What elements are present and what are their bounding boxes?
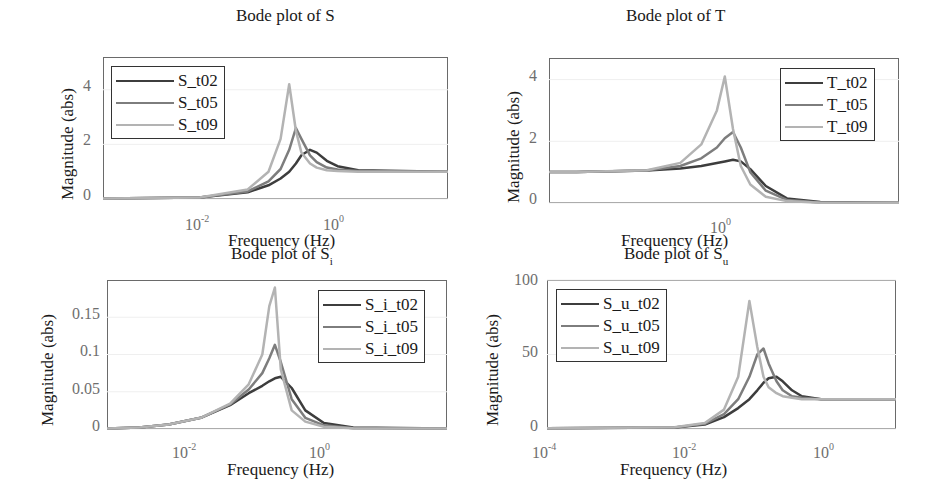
legend-swatch: [561, 325, 599, 327]
legend-item: S_i_t05: [323, 316, 418, 338]
legend-label: S_i_t02: [365, 295, 418, 315]
y-tick-label: 0.05: [52, 380, 100, 398]
legend-item: S_i_t02: [323, 294, 418, 316]
legend-item: S_u_t05: [561, 315, 660, 337]
x-tick-label: 10-2: [672, 441, 696, 462]
legend-label: S_t09: [178, 115, 218, 135]
y-axis-label: Magnitude (abs): [504, 91, 524, 203]
legend-item: S_i_t09: [323, 338, 418, 360]
y-axis-label: Magnitude (abs): [483, 314, 503, 426]
legend: T_t02 T_t05 T_t09: [780, 68, 875, 141]
y-tick-label: 0: [52, 417, 100, 435]
legend-swatch: [561, 303, 599, 305]
legend-label: S_t05: [178, 93, 218, 113]
legend-swatch: [785, 126, 823, 128]
legend-item: S_t05: [116, 92, 218, 114]
legend-swatch: [323, 304, 361, 306]
x-tick-label: 10-2: [185, 213, 209, 234]
y-tick-label: 0: [490, 417, 538, 435]
legend-item: T_t09: [785, 116, 868, 138]
y-tick-label: 4: [43, 77, 91, 95]
legend-label: S_u_t09: [603, 338, 660, 358]
series-line-S_u_t02: [547, 377, 896, 429]
legend-label: S_u_t02: [603, 294, 660, 314]
legend-item: T_t05: [785, 94, 868, 116]
y-tick-label: 2: [489, 129, 537, 147]
legend-swatch: [323, 326, 361, 328]
legend-label: S_i_t09: [365, 339, 418, 359]
legend-label: T_t02: [827, 73, 868, 93]
legend-swatch: [116, 102, 174, 104]
legend-item: S_u_t02: [561, 293, 660, 315]
legend-item: T_t02: [785, 72, 868, 94]
legend-swatch: [116, 80, 174, 82]
y-tick-label: 0: [489, 190, 537, 208]
x-tick-label: 10-4: [532, 441, 556, 462]
y-tick-label: 100: [490, 271, 538, 289]
y-tick-label: 0.1: [52, 342, 100, 360]
legend-swatch: [785, 104, 823, 106]
y-tick-label: 50: [490, 343, 538, 361]
legend-label: S_t02: [178, 71, 218, 91]
x-tick-label: 100: [309, 441, 330, 462]
legend-item: S_u_t09: [561, 337, 660, 359]
chart-title: Bode plot of Si: [231, 244, 333, 267]
x-tick-label: 100: [813, 441, 834, 462]
y-tick-label: 0: [43, 186, 91, 204]
legend-swatch: [785, 82, 823, 84]
chart-title: Bode plot of S: [236, 6, 335, 26]
y-axis-label: Magnitude (abs): [38, 314, 58, 426]
legend-swatch: [323, 348, 361, 350]
x-axis-label: Frequency (Hz): [620, 460, 727, 480]
legend: S_u_t02 S_u_t05 S_u_t09: [556, 289, 667, 362]
chart-title: Bode plot of T: [626, 6, 725, 26]
legend-label: S_i_t05: [365, 317, 418, 337]
x-axis-label: Frequency (Hz): [227, 460, 334, 480]
series-line-T_t05: [549, 132, 899, 203]
legend: S_i_t02 S_i_t05 S_i_t09: [318, 290, 425, 363]
legend-label: S_u_t05: [603, 316, 660, 336]
series-line-S_i_t02: [107, 377, 447, 429]
y-tick-label: 2: [43, 131, 91, 149]
legend: S_t02 S_t05 S_t09: [111, 66, 225, 139]
y-tick-label: 0.15: [52, 305, 100, 323]
series-line-T_t02: [549, 160, 899, 203]
legend-item: S_t02: [116, 70, 218, 92]
x-tick-label: 10-2: [172, 441, 196, 462]
legend-label: T_t05: [827, 95, 868, 115]
legend-label: T_t09: [827, 117, 868, 137]
chart-title: Bode plot of Su: [624, 244, 728, 267]
legend-swatch: [561, 347, 599, 349]
legend-swatch: [116, 124, 174, 126]
legend-item: S_t09: [116, 114, 218, 136]
y-tick-label: 4: [489, 67, 537, 85]
